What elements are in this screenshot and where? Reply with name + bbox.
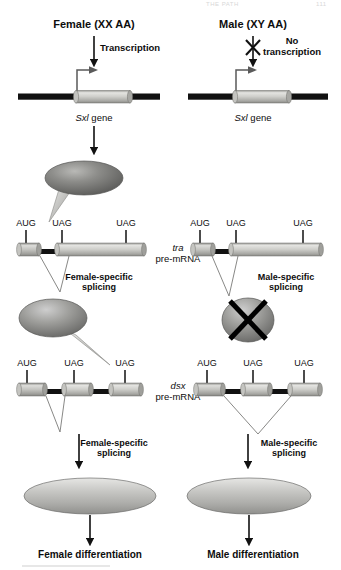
dsx-female-transcript <box>17 370 144 432</box>
tra-female-transcript <box>17 230 147 292</box>
pathway-graphics <box>0 0 341 570</box>
tra-protein-shape <box>19 299 110 365</box>
dsx-male-transcript <box>194 370 323 434</box>
male-blocked-transcription-icon <box>246 36 260 64</box>
dsx-m-protein-shape <box>187 478 311 514</box>
sxl-protein-shape <box>45 161 123 222</box>
male-sxl-gene <box>188 66 328 103</box>
figure-canvas: THE PATH 111 Female (XX AA) Male (XY AA)… <box>0 0 341 570</box>
tra-male-transcript <box>191 230 324 296</box>
female-sxl-gene <box>18 66 160 103</box>
male-no-tra-protein-icon <box>222 298 274 342</box>
dsx-f-protein-shape <box>24 478 156 514</box>
